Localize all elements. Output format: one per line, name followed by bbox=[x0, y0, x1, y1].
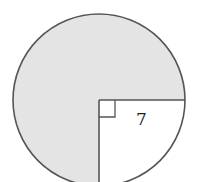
radius-label: 7 bbox=[136, 109, 147, 129]
circle-diagram: 7 bbox=[0, 0, 202, 182]
right-angle-marker bbox=[99, 100, 115, 117]
